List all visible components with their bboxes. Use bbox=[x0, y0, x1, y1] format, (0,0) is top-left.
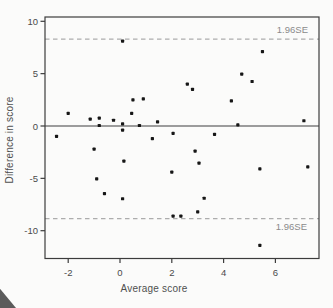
y-tick-label: 10 bbox=[27, 16, 38, 27]
data-point bbox=[258, 244, 261, 247]
data-point bbox=[171, 214, 174, 217]
data-point bbox=[142, 97, 145, 100]
data-point bbox=[191, 88, 194, 91]
data-point bbox=[179, 214, 182, 217]
data-point bbox=[55, 135, 58, 138]
data-point bbox=[240, 73, 243, 76]
data-point bbox=[95, 177, 98, 180]
data-point bbox=[250, 80, 253, 83]
data-point bbox=[186, 83, 189, 86]
y-axis-title: Difference in score bbox=[4, 70, 18, 210]
data-point bbox=[197, 162, 200, 165]
bland-altman-figure: -20246-10-50510 Average score Difference… bbox=[0, 0, 333, 308]
data-point bbox=[258, 167, 261, 170]
y-tick-label: 5 bbox=[33, 68, 38, 79]
data-point bbox=[194, 150, 197, 153]
data-point bbox=[170, 170, 173, 173]
data-point bbox=[196, 210, 199, 213]
data-point bbox=[130, 112, 133, 115]
data-point bbox=[121, 40, 124, 43]
y-tick-label: -5 bbox=[30, 173, 38, 184]
data-point bbox=[121, 197, 124, 200]
data-point bbox=[171, 132, 174, 135]
data-point bbox=[236, 123, 239, 126]
scatter-plot-canvas: -20246-10-50510 bbox=[0, 0, 333, 308]
data-point bbox=[121, 122, 124, 125]
y-tick-label: 0 bbox=[33, 121, 38, 132]
lower-limit-label: 1.96SE bbox=[276, 221, 307, 232]
data-point bbox=[93, 147, 96, 150]
data-point bbox=[230, 99, 233, 102]
data-point bbox=[203, 197, 206, 200]
data-point bbox=[261, 50, 264, 53]
data-point bbox=[138, 124, 141, 127]
data-point bbox=[89, 118, 92, 121]
data-point bbox=[302, 119, 305, 122]
data-point bbox=[213, 133, 216, 136]
data-point bbox=[121, 129, 124, 132]
x-tick-label: -2 bbox=[64, 267, 72, 278]
data-point bbox=[67, 112, 70, 115]
x-tick-label: 4 bbox=[221, 267, 226, 278]
x-axis-title: Average score bbox=[0, 283, 308, 294]
data-point bbox=[98, 124, 101, 127]
data-point bbox=[156, 120, 159, 123]
data-point bbox=[103, 192, 106, 195]
x-tick-label: 6 bbox=[273, 267, 278, 278]
data-point bbox=[151, 137, 154, 140]
data-point bbox=[131, 98, 134, 101]
data-point bbox=[112, 119, 115, 122]
upper-limit-label: 1.96SE bbox=[277, 24, 308, 35]
x-tick-label: 2 bbox=[169, 267, 174, 278]
x-tick-label: 0 bbox=[117, 267, 122, 278]
data-point bbox=[306, 165, 309, 168]
data-point bbox=[122, 159, 125, 162]
y-tick-label: -10 bbox=[24, 225, 38, 236]
data-point bbox=[98, 117, 101, 120]
